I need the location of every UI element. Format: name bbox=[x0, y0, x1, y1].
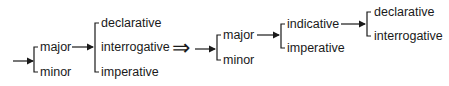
right-option-minor: minor bbox=[223, 53, 254, 67]
right-option-interrogative: interrogative bbox=[374, 29, 443, 43]
right-option-indicative: indicative bbox=[287, 17, 339, 31]
left-option-major: major bbox=[40, 40, 71, 54]
implies-arrow-icon: ⇒ bbox=[172, 37, 190, 59]
left-option-interrogative: interrogative bbox=[101, 40, 170, 54]
right-option-imperative: imperative bbox=[287, 41, 345, 55]
left-option-declarative: declarative bbox=[101, 16, 161, 30]
right-option-major: major bbox=[223, 28, 254, 42]
right-option-declarative: declarative bbox=[374, 5, 434, 19]
left-option-minor: minor bbox=[40, 65, 71, 79]
left-option-imperative: imperative bbox=[101, 65, 159, 79]
